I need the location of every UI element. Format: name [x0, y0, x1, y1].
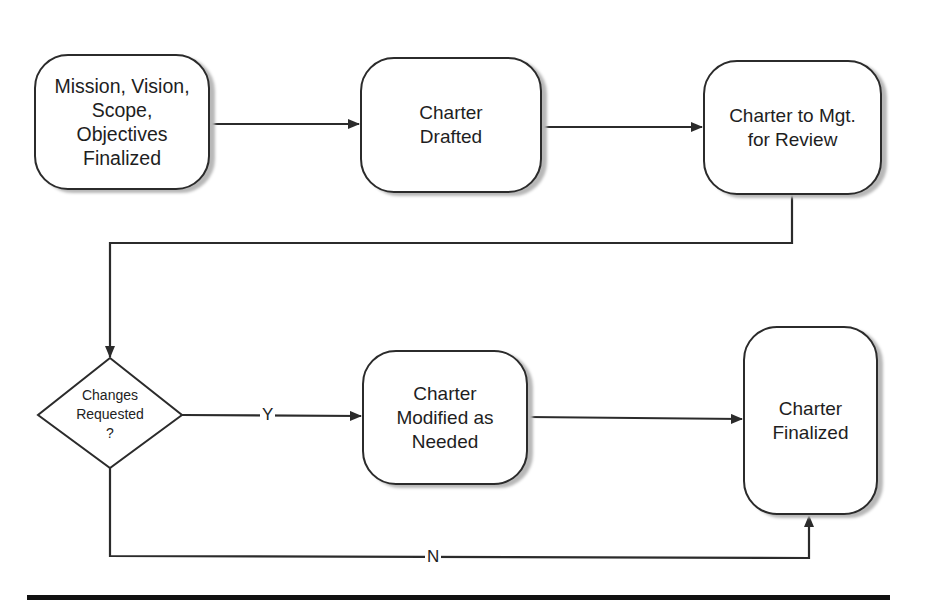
node-charter-modified: Charter Modified as Needed: [362, 350, 528, 485]
node-label: Mission, Vision, Scope, Objectives Final…: [54, 74, 189, 170]
node-label: Charter Drafted: [419, 101, 482, 149]
edge-review-to-decision: [110, 195, 792, 357]
decision-label: Changes Requested ?: [55, 386, 165, 443]
node-charter-finalized: Charter Finalized: [743, 326, 878, 515]
node-label: Charter to Mgt. for Review: [729, 104, 856, 152]
node-label: Charter Finalized: [772, 397, 848, 445]
node-charter-to-mgt-review: Charter to Mgt. for Review: [703, 60, 882, 195]
edge-label-yes: Y: [260, 406, 275, 424]
edge-label-no: N: [425, 548, 441, 566]
node-mission-finalized: Mission, Vision, Scope, Objectives Final…: [34, 54, 210, 190]
node-charter-drafted: Charter Drafted: [360, 57, 542, 193]
bottom-rule: [27, 595, 890, 600]
edge-modified-to-finalized: [528, 417, 742, 419]
node-label: Charter Modified as Needed: [396, 382, 493, 454]
